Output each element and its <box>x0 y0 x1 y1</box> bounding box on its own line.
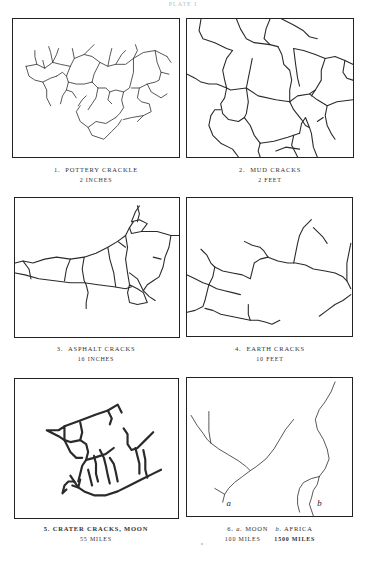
moon-africa-drawing: a b <box>187 378 352 516</box>
figure-1-scale: 2 INCHES <box>12 175 180 186</box>
figure-5-crater-cracks-moon <box>14 378 179 519</box>
figure-1-title: POTTERY CRACKLE <box>65 166 138 173</box>
figure-3-asphalt-cracks <box>14 197 180 338</box>
label-b: b <box>317 498 322 508</box>
figure-6-number: 6. <box>227 525 233 532</box>
figure-6-title-b: AFRICA <box>284 525 313 532</box>
caption-figure-3: 3. ASPHALT CRACKS 16 INCHES <box>12 343 180 365</box>
caption-figure-4: 4. EARTH CRACKS 10 FEET <box>186 343 354 365</box>
figure-5-title: CRATER CRACKS, MOON <box>53 525 148 532</box>
figure-1-number: 1. <box>54 166 60 173</box>
mud-cracks-drawing <box>187 19 353 157</box>
page-speck <box>201 543 203 545</box>
figure-5-number: 5. <box>44 525 50 532</box>
crater-cracks-drawing <box>15 379 178 518</box>
pottery-crackle-drawing <box>13 19 179 157</box>
figure-6-a-letter: a. <box>236 525 242 532</box>
figure-3-scale: 16 INCHES <box>12 354 180 365</box>
earth-cracks-drawing <box>187 198 352 336</box>
figure-2-title: MUD CRACKS <box>250 166 301 173</box>
figure-2-mud-cracks <box>186 18 354 158</box>
figure-4-earth-cracks <box>186 197 353 337</box>
figure-4-scale: 10 FEET <box>186 354 354 365</box>
label-a: a <box>227 498 232 508</box>
asphalt-cracks-drawing <box>15 198 179 337</box>
figure-6-scale-b: 1500 MILES <box>274 536 315 542</box>
figure-2-number: 2. <box>239 166 245 173</box>
caption-figure-5: 5. CRATER CRACKS, MOON 55 MILES <box>12 523 180 545</box>
figure-6-moon-africa: a b <box>186 377 353 517</box>
figure-1-pottery-crackle <box>12 18 180 158</box>
figure-5-scale: 55 MILES <box>12 534 180 545</box>
caption-figure-2: 2. MUD CRACKS 2 FEET <box>186 164 354 186</box>
caption-figure-1: 1. POTTERY CRACKLE 2 INCHES <box>12 164 180 186</box>
figure-6-scale-a: 100 MILES <box>225 536 261 542</box>
figure-6-b-letter: b. <box>275 525 281 532</box>
figure-3-title: ASPHALT CRACKS <box>68 345 135 352</box>
figure-4-number: 4. <box>235 345 241 352</box>
figure-4-title: EARTH CRACKS <box>246 345 305 352</box>
figure-2-scale: 2 FEET <box>186 175 354 186</box>
figure-3-number: 3. <box>57 345 63 352</box>
plate-header: PLATE I <box>0 0 366 8</box>
caption-figure-6: 6. a. MOON b. AFRICA 100 MILES 1500 MILE… <box>186 523 354 545</box>
figure-6-title-a: MOON <box>245 525 268 532</box>
